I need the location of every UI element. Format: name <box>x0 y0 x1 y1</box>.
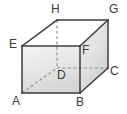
vertex-label-a: A <box>12 95 20 107</box>
vertex-label-e: E <box>9 38 17 50</box>
vertex-label-d: D <box>57 69 66 81</box>
vertex-label-b: B <box>76 96 84 108</box>
cuboid-figure: H G E F D C A B <box>0 0 127 114</box>
face-front-abfe <box>22 46 80 93</box>
vertex-label-h: H <box>51 3 60 15</box>
vertex-label-g: G <box>109 3 118 15</box>
vertex-label-c: C <box>110 65 119 77</box>
vertex-label-f: F <box>82 44 89 56</box>
